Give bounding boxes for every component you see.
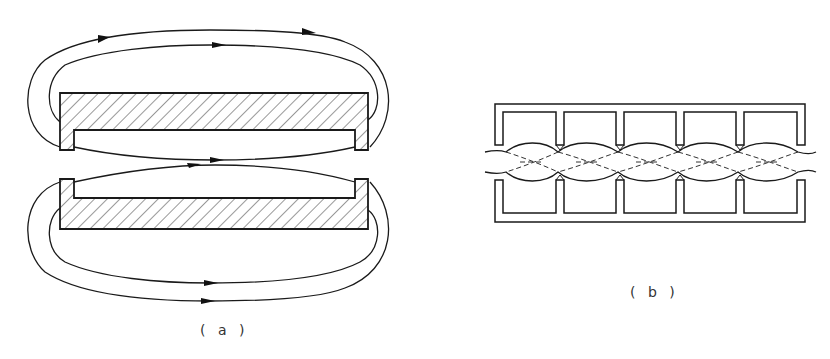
arrow-icon <box>210 157 224 163</box>
upper-magnet <box>60 93 368 150</box>
arrow-icon <box>201 298 215 304</box>
arrow-icon <box>302 28 316 35</box>
wavy-line-upper <box>485 143 816 154</box>
arrow-icon <box>204 280 218 286</box>
flux-line-gap-lower <box>74 165 355 182</box>
wavy-line-lower <box>485 171 816 182</box>
panel-b-label: ( b ) <box>630 284 679 300</box>
panel-b <box>485 104 816 222</box>
arrow-icon <box>212 42 226 48</box>
diagram-canvas <box>0 0 830 359</box>
lower-magnet <box>60 179 368 229</box>
panel-a-label: ( a ) <box>200 322 248 338</box>
upper-comb <box>495 104 805 145</box>
panel-a <box>28 28 389 304</box>
arrow-icon <box>98 35 110 43</box>
lower-comb <box>495 180 805 222</box>
